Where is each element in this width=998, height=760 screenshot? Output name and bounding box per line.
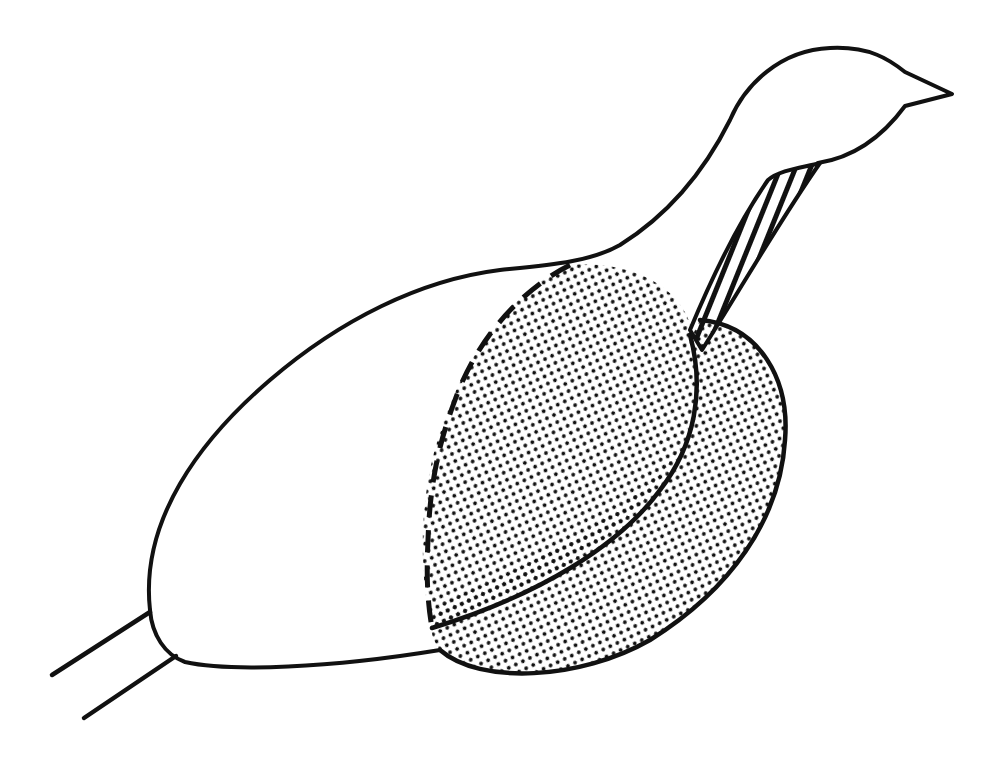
leg-lower xyxy=(84,656,176,718)
legs xyxy=(52,612,176,718)
bird-figure-svg xyxy=(0,0,998,760)
belly-line xyxy=(150,610,440,667)
bird-diagram xyxy=(0,0,998,760)
leg-upper xyxy=(52,612,150,675)
neck-hatched-band xyxy=(690,163,820,350)
